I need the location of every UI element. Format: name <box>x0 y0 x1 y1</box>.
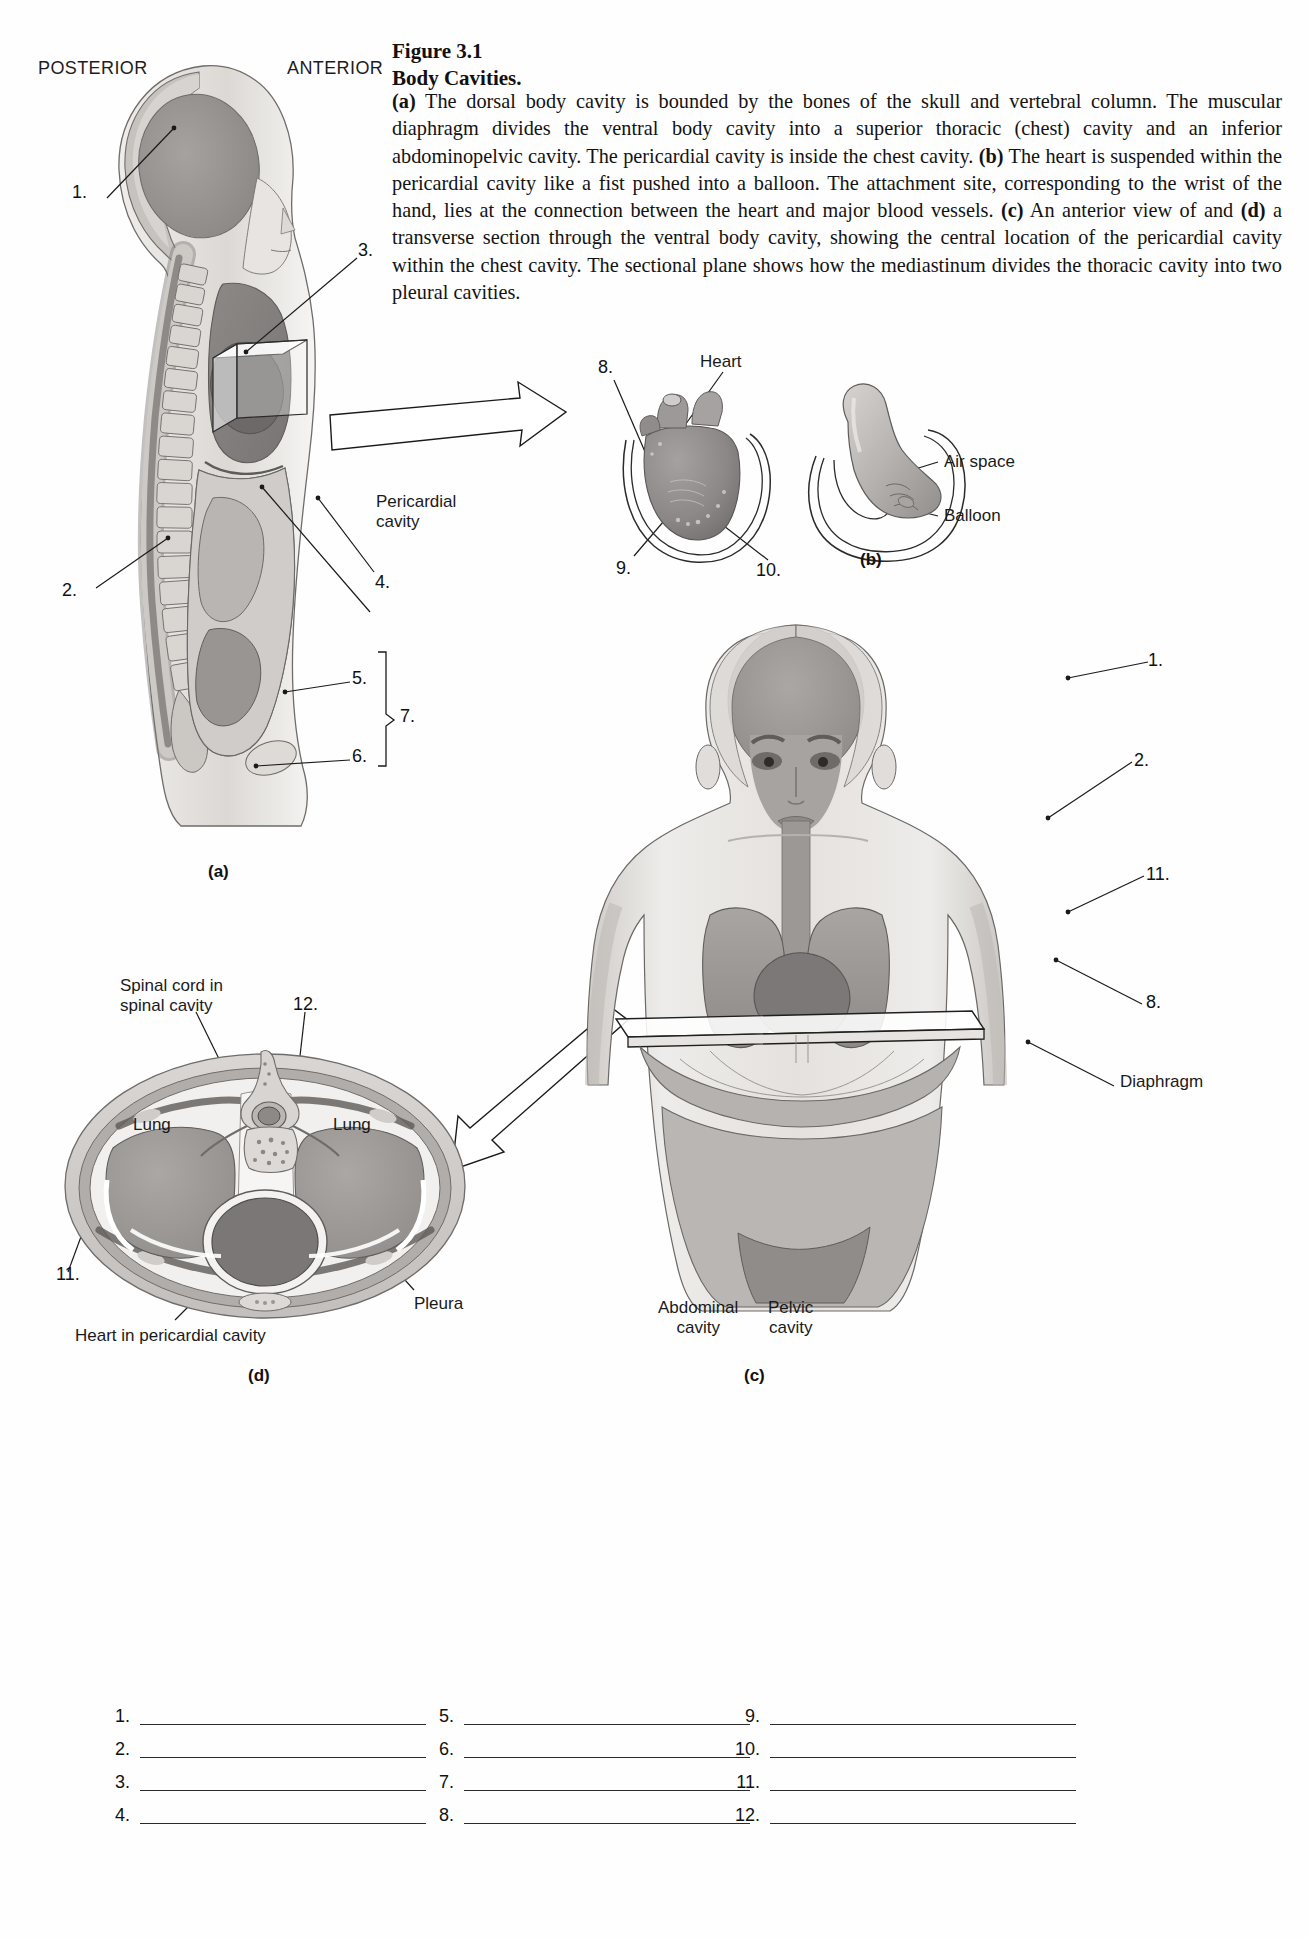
panel-d-transverse-section <box>55 1030 475 1330</box>
answer-number: 1. <box>96 1706 130 1727</box>
label-diaphragm: Diaphragm <box>1120 1072 1203 1092</box>
answer-row[interactable]: 1. <box>96 1702 426 1735</box>
callout-heart-8: 8. <box>598 357 613 378</box>
callout-a-4: 4. <box>375 572 390 593</box>
answer-line[interactable] <box>770 1724 1076 1725</box>
figure-caption: (a) The dorsal body cavity is bounded by… <box>392 88 1282 306</box>
answer-column-3: 9. 10. 11. 12. <box>726 1702 1076 1834</box>
ear-right <box>872 745 896 789</box>
panel-label-d: (d) <box>248 1366 270 1386</box>
callout-c-8: 8. <box>1146 992 1161 1013</box>
answer-column-1: 1. 2. 3. 4. <box>96 1702 426 1834</box>
callout-heart-9: 9. <box>616 558 631 579</box>
callout-heart-10: 10. <box>756 560 781 581</box>
answer-row[interactable]: 4. <box>96 1801 426 1834</box>
label-lung-left: Lung <box>133 1115 171 1135</box>
answer-row[interactable]: 10. <box>726 1735 1076 1768</box>
answer-line[interactable] <box>770 1823 1076 1824</box>
pupil-left <box>764 757 774 767</box>
answer-line[interactable] <box>770 1790 1076 1791</box>
label-heart: Heart <box>700 352 742 372</box>
panel-label-c: (c) <box>744 1366 765 1386</box>
panel-label-a: (a) <box>208 862 229 882</box>
heart-in-pericardium-illustration <box>600 378 820 583</box>
answer-line[interactable] <box>770 1757 1076 1758</box>
answer-row[interactable]: 6. <box>420 1735 750 1768</box>
label-abdominal-cavity: Abdominal cavity <box>658 1298 738 1338</box>
answer-number: 7. <box>420 1772 454 1793</box>
label-balloon: Balloon <box>944 506 1001 526</box>
callout-a-3: 3. <box>358 240 373 261</box>
caption-marker-c: (c) <box>1001 199 1024 221</box>
answer-row[interactable]: 5. <box>420 1702 750 1735</box>
callout-a-7: 7. <box>400 706 415 727</box>
answer-number: 11. <box>726 1772 760 1793</box>
answer-number: 8. <box>420 1805 454 1826</box>
label-pelvic-cavity: Pelvic cavity <box>768 1298 813 1338</box>
callout-a-2: 2. <box>62 580 77 601</box>
label-air-space: Air space <box>944 452 1015 472</box>
callout-a-6: 6. <box>352 746 367 767</box>
answer-line[interactable] <box>464 1757 750 1758</box>
answer-number: 2. <box>96 1739 130 1760</box>
answer-blanks: 1. 2. 3. 4. 5. 6. <box>96 1702 1226 1862</box>
answer-line[interactable] <box>140 1724 426 1725</box>
answer-number: 5. <box>420 1706 454 1727</box>
callout-arrow-to-heart <box>330 382 566 450</box>
callout-c-1: 1. <box>1148 650 1163 671</box>
answer-row[interactable]: 11. <box>726 1768 1076 1801</box>
caption-text-3: An anterior view of and <box>1024 199 1241 221</box>
answer-line[interactable] <box>140 1757 426 1758</box>
ear-left <box>696 745 720 789</box>
answer-column-2: 5. 6. 7. 8. <box>420 1702 750 1834</box>
answer-row[interactable]: 2. <box>96 1735 426 1768</box>
caption-marker-b: (b) <box>979 145 1004 167</box>
panel-a-sagittal-section <box>95 58 365 848</box>
label-lung-right: Lung <box>333 1115 371 1135</box>
answer-number: 6. <box>420 1739 454 1760</box>
callout-a-1: 1. <box>72 182 87 203</box>
answer-line[interactable] <box>140 1823 426 1824</box>
callout-c-11: 11. <box>1146 864 1170 885</box>
answer-number: 9. <box>726 1706 760 1727</box>
answer-row[interactable]: 8. <box>420 1801 750 1834</box>
pupil-right <box>818 757 828 767</box>
vessel-lumen-1 <box>663 394 681 406</box>
answer-row[interactable]: 3. <box>96 1768 426 1801</box>
figure-heading: Figure 3.1 Body Cavities. <box>392 38 1280 92</box>
panel-c-anterior-view <box>560 615 1030 1315</box>
figure-page: POSTERIOR ANTERIOR Figure 3.1 Body Cavit… <box>0 0 1308 1938</box>
vertebral-body <box>244 1127 297 1173</box>
answer-number: 3. <box>96 1772 130 1793</box>
callout-d-12: 12. <box>293 994 318 1015</box>
panel-b-fist-in-balloon <box>790 380 1050 580</box>
label-pericardial-cavity: Pericardial cavity <box>376 492 456 532</box>
answer-line[interactable] <box>140 1790 426 1791</box>
heart-transverse <box>212 1198 318 1286</box>
answer-row[interactable]: 9. <box>726 1702 1076 1735</box>
answer-number: 10. <box>726 1739 760 1760</box>
answer-row[interactable]: 7. <box>420 1768 750 1801</box>
sagittal-illustration <box>95 58 365 848</box>
caption-marker-a: (a) <box>392 90 416 112</box>
panel-label-b: (b) <box>860 550 882 570</box>
callout-d-11: 11. <box>56 1264 80 1285</box>
figure-number: Figure 3.1 <box>392 38 1280 65</box>
label-heart-in-pericardial-cavity: Heart in pericardial cavity <box>75 1326 266 1346</box>
great-vessel-2 <box>692 392 722 426</box>
answer-line[interactable] <box>464 1823 750 1824</box>
label-spinal-cord-in-spinal-cavity: Spinal cord in spinal cavity <box>120 976 223 1016</box>
answer-line[interactable] <box>464 1790 750 1791</box>
label-pleura: Pleura <box>414 1294 463 1314</box>
callout-a-5: 5. <box>352 668 367 689</box>
answer-line[interactable] <box>464 1724 750 1725</box>
caption-marker-d: (d) <box>1241 199 1266 221</box>
answer-number: 4. <box>96 1805 130 1826</box>
spinal-cord <box>258 1107 280 1125</box>
answer-row[interactable]: 12. <box>726 1801 1076 1834</box>
callout-c-2: 2. <box>1134 750 1149 771</box>
answer-number: 12. <box>726 1805 760 1826</box>
